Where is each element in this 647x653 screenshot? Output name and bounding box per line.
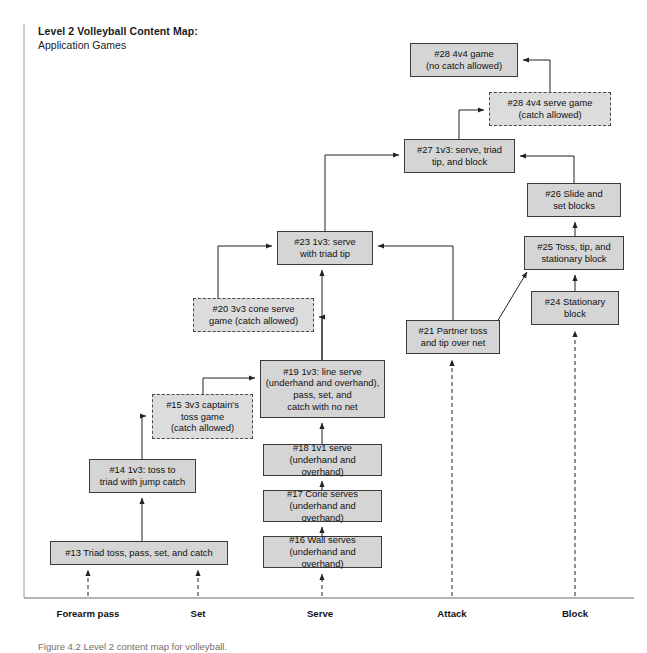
- node-label: #14 1v3: toss totriad with jump catch: [93, 464, 192, 488]
- node-label: #13 Triad toss, pass, set, and catch: [54, 547, 224, 559]
- node-n19[interactable]: #19 1v3: line serve(underhand and overha…: [260, 360, 385, 418]
- node-n18[interactable]: #18 1v1 serve(underhand and overhand): [263, 444, 382, 476]
- edge-20-to-23: [218, 246, 272, 298]
- edge-21-to-23: [378, 246, 453, 320]
- node-label: #23 1v3: servewith triad tip: [281, 236, 369, 260]
- node-label: #24 Stationaryblock: [535, 296, 615, 320]
- node-label: #27 1v3: serve, triadtip, and block: [408, 144, 511, 168]
- edge-19-to-20: [319, 317, 322, 360]
- edge-26-to-27: [520, 156, 574, 183]
- node-n26[interactable]: #26 Slide andset blocks: [527, 183, 621, 217]
- node-label: #28 4v4 game(no catch allowed): [414, 48, 514, 72]
- node-n17[interactable]: #17 Cone serves(underhand and overhand): [263, 490, 382, 522]
- node-n14[interactable]: #14 1v3: toss totriad with jump catch: [89, 459, 196, 493]
- edge-23-to-27: [325, 155, 399, 231]
- edge-14-to-15: [142, 416, 146, 459]
- node-n15[interactable]: #15 3v3 captain'stoss game(catch allowed…: [152, 394, 253, 439]
- node-n21[interactable]: #21 Partner tossand tip over net: [406, 320, 500, 354]
- node-n20[interactable]: #20 3v3 cone servegame (catch allowed): [193, 298, 314, 332]
- node-label: #19 1v3: line serve(underhand and overha…: [264, 366, 381, 413]
- edge-27-to-28serve: [459, 110, 484, 139]
- edge-28serve-to-28game: [523, 60, 550, 92]
- edge-15-to-19: [203, 378, 255, 394]
- node-label: #25 Toss, tip, andstationary block: [528, 241, 620, 265]
- axis-label-1: Set: [191, 608, 206, 619]
- node-n23[interactable]: #23 1v3: servewith triad tip: [277, 231, 373, 265]
- axis-label-4: Block: [562, 608, 588, 619]
- title-line-1: Level 2 Volleyball Content Map:: [38, 24, 198, 38]
- node-label: #20 3v3 cone servegame (catch allowed): [197, 303, 310, 327]
- title-line-2: Application Games: [38, 38, 198, 52]
- node-label: #26 Slide andset blocks: [531, 188, 617, 212]
- node-n13[interactable]: #13 Triad toss, pass, set, and catch: [50, 541, 228, 565]
- content-map-diagram: Level 2 Volleyball Content Map: Applicat…: [0, 0, 647, 653]
- axis-label-0: Forearm pass: [57, 608, 120, 619]
- node-n25[interactable]: #25 Toss, tip, andstationary block: [524, 236, 624, 270]
- node-n16[interactable]: #16 Wall serves(underhand and overhand): [263, 536, 382, 568]
- axis-label-3: Attack: [437, 608, 466, 619]
- node-label: #15 3v3 captain'stoss game(catch allowed…: [156, 399, 249, 434]
- axis-label-2: Serve: [307, 608, 333, 619]
- node-label: #21 Partner tossand tip over net: [410, 325, 496, 349]
- node-n28serve[interactable]: #28 4v4 serve game(catch allowed): [489, 92, 611, 126]
- node-n24[interactable]: #24 Stationaryblock: [531, 291, 619, 325]
- node-label: #18 1v1 serve(underhand and overhand): [267, 442, 378, 477]
- node-n28game[interactable]: #28 4v4 game(no catch allowed): [410, 43, 518, 77]
- node-label: #17 Cone serves(underhand and overhand): [267, 488, 378, 523]
- page-title: Level 2 Volleyball Content Map: Applicat…: [38, 24, 198, 52]
- node-n27[interactable]: #27 1v3: serve, triadtip, and block: [404, 139, 515, 173]
- figure-caption: Figure 4.2 Level 2 content map for volle…: [38, 641, 227, 652]
- node-label: #28 4v4 serve game(catch allowed): [493, 97, 607, 121]
- node-label: #16 Wall serves(underhand and overhand): [267, 534, 378, 569]
- edge-21-to-25: [497, 272, 527, 322]
